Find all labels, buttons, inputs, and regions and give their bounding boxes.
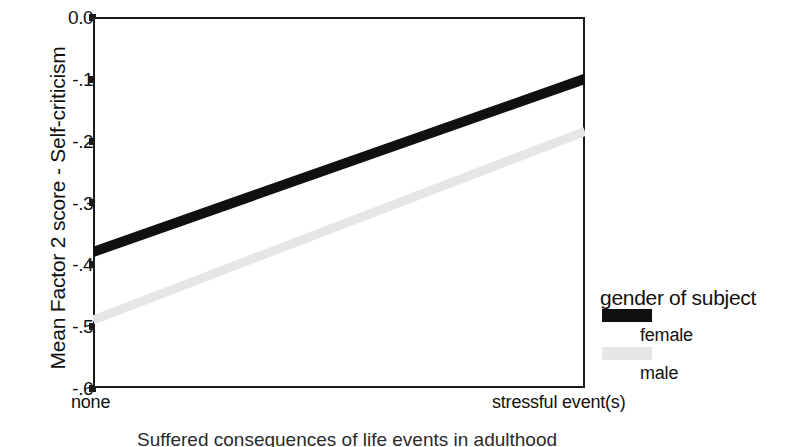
x-tick-label-none: none	[71, 392, 110, 412]
legend-label-female: female	[640, 325, 693, 345]
plot-series-canvas	[93, 17, 585, 388]
y-tick-label-0: 0.0	[49, 8, 93, 27]
legend-title: gender of subject	[600, 286, 791, 309]
legend-entry-female: female	[600, 309, 791, 347]
figure-caption: Suffered consequences of life events in …	[137, 430, 737, 447]
y-tick-label-4: -.4	[49, 255, 93, 274]
y-tick-label-5: -.5	[49, 317, 93, 336]
y-tick-label-1: -.1	[49, 70, 93, 89]
y-tick-label-3: -.3	[49, 194, 93, 213]
y-axis-tick-group: 0.0 -.1 -.2 -.3 -.4 -.5 -.6	[40, 0, 93, 447]
legend-entry-male: male	[600, 347, 791, 385]
legend-swatch-male	[602, 347, 652, 360]
x-tick-label-stressful-events: stressful event(s)	[492, 392, 625, 412]
legend-label-male: male	[640, 363, 678, 383]
legend: gender of subject female male	[600, 286, 791, 385]
y-tick-label-2: -.2	[49, 132, 93, 151]
legend-swatch-female	[602, 309, 652, 322]
